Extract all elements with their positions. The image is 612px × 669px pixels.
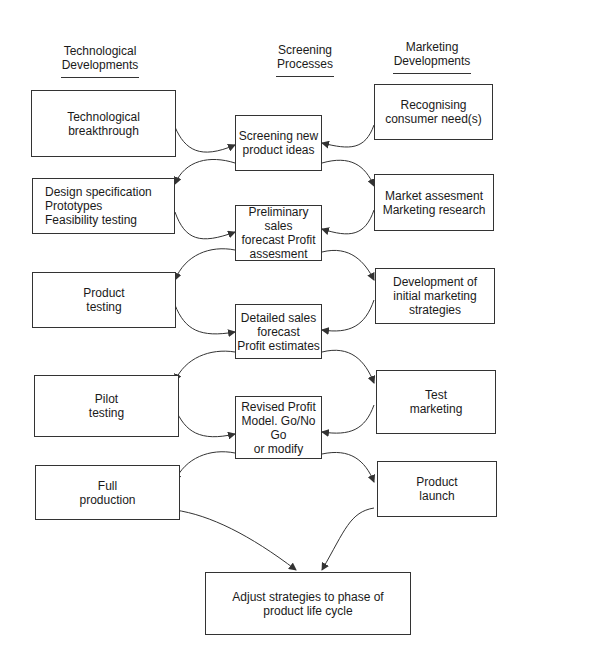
box-label: Market assesment Marketing research xyxy=(383,189,486,217)
box-label: Screening new product ideas xyxy=(239,129,318,157)
box-test-marketing: Test marketing xyxy=(376,370,496,434)
box-full-production: Full production xyxy=(35,465,180,520)
box-label: Technological breakthrough xyxy=(67,110,140,138)
box-technological-breakthrough: Technological breakthrough xyxy=(31,90,176,157)
box-label: Design specification Prototypes Feasibil… xyxy=(45,185,152,227)
box-pilot-testing: Pilot testing xyxy=(34,375,179,437)
box-label: Revised Profit Model. Go/No Go or modify xyxy=(236,400,321,456)
box-label: Product launch xyxy=(416,475,457,503)
box-label: Recognising consumer need(s) xyxy=(385,98,482,126)
box-revised-profit-model: Revised Profit Model. Go/No Go or modify xyxy=(235,396,322,459)
box-label: Product testing xyxy=(83,286,124,314)
box-label: Detailed sales forecast Profit estimates xyxy=(237,311,320,353)
box-label: Development of initial marketing strateg… xyxy=(393,275,477,317)
box-detailed-sales-forecast: Detailed sales forecast Profit estimates xyxy=(235,304,322,359)
box-label: Adjust strategies to phase of product li… xyxy=(232,590,383,618)
box-recognising-consumer-needs: Recognising consumer need(s) xyxy=(374,84,493,140)
box-design-specification: Design specification Prototypes Feasibil… xyxy=(32,178,175,234)
box-label: Preliminary sales forecast Profit assesm… xyxy=(236,205,321,261)
box-preliminary-sales-forecast: Preliminary sales forecast Profit assesm… xyxy=(235,205,322,261)
box-label: Test marketing xyxy=(410,388,463,416)
box-screening-new-product-ideas: Screening new product ideas xyxy=(235,115,322,171)
box-product-launch: Product launch xyxy=(377,461,497,517)
box-product-testing: Product testing xyxy=(32,272,176,328)
box-label: Pilot testing xyxy=(89,392,124,420)
box-market-assesment: Market assesment Marketing research xyxy=(374,174,494,231)
box-label: Full production xyxy=(79,479,135,507)
box-adjust-strategies: Adjust strategies to phase of product li… xyxy=(205,572,411,635)
box-development-initial-marketing: Development of initial marketing strateg… xyxy=(375,268,495,324)
